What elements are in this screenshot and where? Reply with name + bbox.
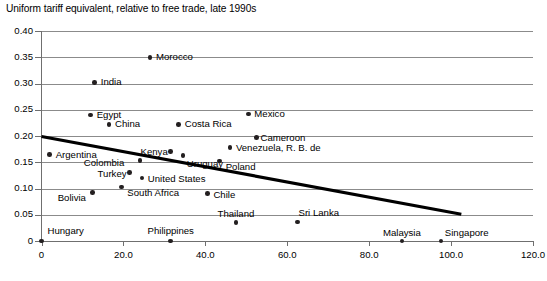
data-point-label: Costa Rica — [185, 119, 232, 129]
x-axis-tick-mark — [369, 241, 370, 246]
data-point-label: Philippines — [148, 226, 194, 236]
y-axis-tick-label: 0.35 — [0, 52, 33, 62]
data-point — [140, 176, 145, 181]
data-point-label: United States — [148, 174, 206, 184]
data-point-label: Bolivia — [58, 193, 86, 203]
y-axis-tick-label: 0.40 — [0, 26, 33, 36]
data-point-label: China — [115, 119, 140, 129]
data-point — [138, 158, 143, 163]
data-point — [92, 80, 97, 85]
data-point — [47, 152, 52, 157]
y-axis-tick-label: 0.05 — [0, 209, 33, 219]
data-point — [168, 149, 173, 154]
data-point-label: Chile — [213, 190, 235, 200]
data-point — [39, 239, 44, 244]
data-point — [228, 145, 233, 150]
data-point — [400, 239, 405, 244]
data-point — [439, 239, 444, 244]
data-point — [168, 239, 173, 244]
y-axis-tick-label: 0.30 — [0, 78, 33, 88]
gridline — [41, 215, 533, 216]
x-axis-tick-label: 0 — [17, 249, 67, 260]
y-axis-tick-label: 0.10 — [0, 183, 33, 193]
y-axis-tick-label: 0.20 — [0, 131, 33, 141]
gridline — [41, 189, 533, 190]
data-point — [88, 113, 93, 118]
data-point — [127, 170, 132, 175]
data-point — [107, 122, 112, 127]
y-axis-line — [41, 31, 42, 242]
x-axis-tick-label: 40.0 — [180, 249, 230, 260]
data-point — [176, 122, 181, 127]
data-point-label: Kenya — [141, 147, 168, 157]
y-axis-tick-label: 0.15 — [0, 157, 33, 167]
data-point-label: Singapore — [445, 228, 489, 238]
data-point — [90, 190, 95, 195]
data-point — [205, 191, 210, 196]
data-point-label: Sri Lanka — [298, 208, 339, 218]
x-axis-tick-mark — [205, 241, 206, 246]
data-point — [148, 55, 153, 60]
x-axis-tick-mark — [287, 241, 288, 246]
x-axis-tick-mark — [533, 241, 534, 246]
data-point-label: India — [101, 77, 122, 87]
data-point-label: Hungary — [48, 226, 84, 236]
x-axis-tick-mark — [451, 241, 452, 246]
data-point — [119, 185, 124, 190]
y-axis-tick-label: 0 — [0, 236, 33, 246]
x-axis-tick-label: 60.0 — [262, 249, 312, 260]
data-point-label: Thailand — [218, 209, 255, 219]
data-point — [295, 220, 300, 225]
x-axis-tick-label: 20.0 — [98, 249, 148, 260]
data-point-label: Mexico — [254, 109, 284, 119]
data-point-label: Venezuela, R. B. de — [236, 143, 321, 153]
scatter-chart: Uniform tariff equivalent, relative to f… — [0, 0, 547, 281]
data-point — [254, 135, 259, 140]
data-point — [246, 112, 251, 117]
data-point-label: Turkey — [98, 169, 127, 179]
data-point-label: Colombia — [84, 158, 125, 168]
data-point-label: South Africa — [127, 188, 179, 198]
gridline — [41, 57, 533, 58]
x-axis-tick-mark — [123, 241, 124, 246]
x-axis-tick-label: 80.0 — [344, 249, 394, 260]
y-axis-tick-label: 0.25 — [0, 104, 33, 114]
data-point-label: Morocco — [156, 52, 193, 62]
plot-area: 00.050.100.150.200.250.300.350.40020.040… — [0, 0, 547, 281]
x-axis-tick-label: 120.0 — [508, 249, 547, 260]
x-axis-tick-label: 100.0 — [426, 249, 476, 260]
data-point-label: Poland — [226, 162, 256, 172]
data-point — [234, 220, 239, 225]
gridline — [41, 31, 533, 32]
data-point — [181, 153, 186, 158]
data-point-label: Malaysia — [383, 228, 421, 238]
